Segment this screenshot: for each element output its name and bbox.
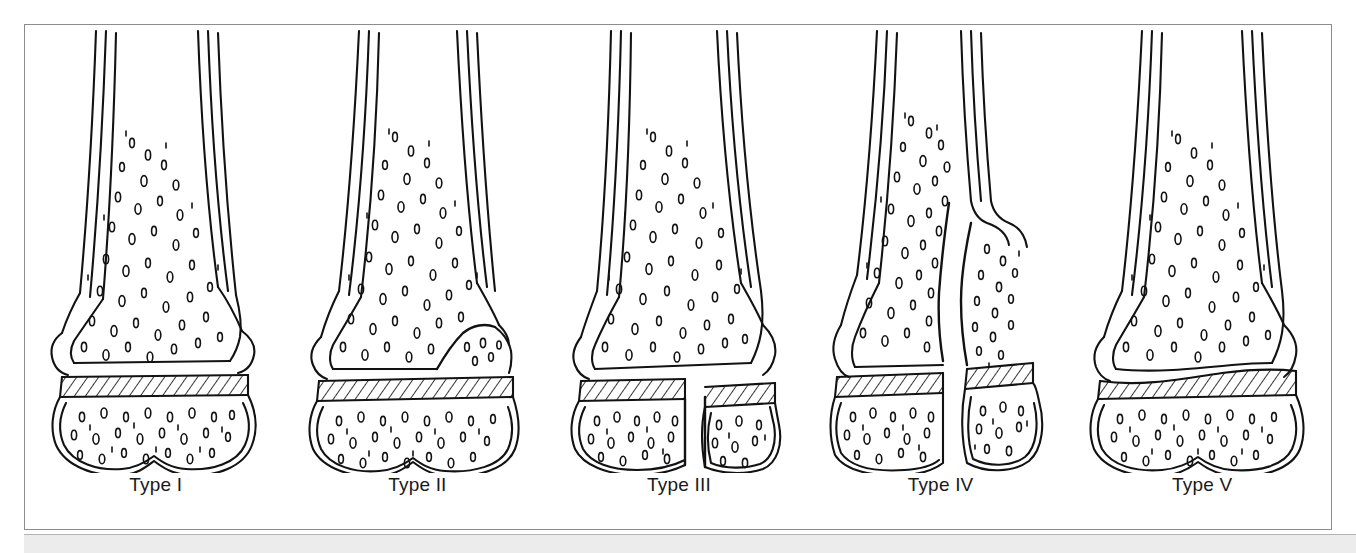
fracture-line-metaphysis-2 xyxy=(961,223,971,365)
trabeculae-epiphysis xyxy=(1112,410,1277,466)
bone-panel-type-4: Type IV xyxy=(811,25,1071,525)
panel-label-type-3: Type III xyxy=(647,475,711,494)
panel-label-type-2: Type II xyxy=(388,475,446,494)
growth-plate-band-left xyxy=(579,379,685,401)
bone-panel-type-3: Type III xyxy=(549,25,809,525)
bone-diagram-type-1 xyxy=(26,25,286,473)
growth-plate-band-left xyxy=(835,373,943,397)
bone-panel-type-2: Type II xyxy=(287,25,547,525)
trabeculae-epiphysis xyxy=(588,412,765,468)
figure-frame: Type I xyxy=(24,24,1332,530)
growth-plate-band xyxy=(60,375,248,397)
trabeculae-epiphysis xyxy=(71,408,234,464)
bone-diagram-type-3 xyxy=(549,25,809,473)
growth-plate-band-right xyxy=(705,383,775,407)
growth-plate-band-right xyxy=(965,363,1033,389)
trabeculae-metaphysis xyxy=(341,129,502,365)
panel-label-type-5: Type V xyxy=(1172,475,1232,494)
panel-label-type-1: Type I xyxy=(129,475,182,494)
bone-diagram-type-4 xyxy=(811,25,1071,473)
bottom-caption-band xyxy=(24,534,1356,553)
bone-panel-type-5: Type V xyxy=(1072,25,1332,525)
panel-row: Type I xyxy=(25,25,1333,529)
bone-diagram-type-5 xyxy=(1072,25,1332,473)
trabeculae-metaphysis xyxy=(81,131,222,362)
bone-diagram-type-2 xyxy=(287,25,547,473)
salter-harris-figure: Type I xyxy=(0,0,1356,553)
bone-panel-type-1: Type I xyxy=(26,25,286,525)
growth-plate-band xyxy=(1098,370,1296,399)
trabeculae-epiphysis xyxy=(844,402,1027,464)
growth-plate-band xyxy=(317,377,513,401)
panel-label-type-4: Type IV xyxy=(908,475,974,494)
fracture-line-metaphysis xyxy=(437,325,495,369)
